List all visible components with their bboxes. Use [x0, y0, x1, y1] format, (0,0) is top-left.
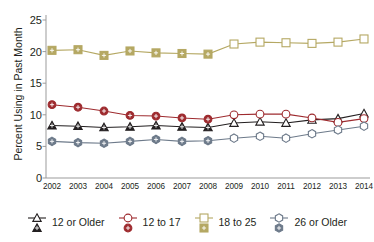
circle-marker-icon: [118, 209, 140, 235]
legend-item-26-or-older: 26 or Older: [269, 209, 347, 235]
chart-legend: 12 or Older 12 to 17 18 to 25 26 or Olde…: [0, 205, 374, 239]
x-tick-label: 2005: [116, 183, 144, 191]
triangle-marker-icon: [27, 209, 49, 235]
x-tick-label: 2014: [350, 183, 374, 191]
legend-label: 12 to 17: [143, 216, 181, 228]
legend-label: 12 or Older: [52, 216, 105, 228]
x-tick-label: 2011: [272, 183, 300, 191]
x-tick-label: 2010: [246, 183, 274, 191]
legend-label: 26 or Older: [294, 216, 347, 228]
line-chart: Percent Using in Past Month 25 20 15 10 …: [0, 0, 374, 242]
x-tick-label: 2013: [324, 183, 352, 191]
x-tick-label: 2007: [168, 183, 196, 191]
legend-item-12-or-older: 12 or Older: [27, 209, 105, 235]
legend-item-18-to-25: 18 to 25: [194, 209, 257, 235]
legend-item-12-to-17: 12 to 17: [118, 209, 181, 235]
x-tick-label: 2008: [194, 183, 222, 191]
x-tick-label: 2012: [298, 183, 326, 191]
x-tick-label: 2003: [64, 183, 92, 191]
square-marker-icon: [194, 209, 216, 235]
x-tick-label: 2009: [220, 183, 248, 191]
x-tick-label: 2006: [142, 183, 170, 191]
x-tick-label: 2002: [38, 183, 66, 191]
x-tick-label: 2004: [90, 183, 118, 191]
hexagon-marker-icon: [269, 209, 291, 235]
legend-label: 18 to 25: [219, 216, 257, 228]
